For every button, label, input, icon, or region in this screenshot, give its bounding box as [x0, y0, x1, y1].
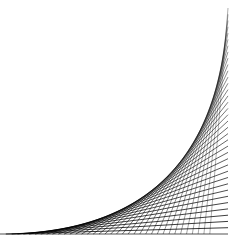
envelope-line — [128, 96, 228, 234]
envelope-curve-figure — [0, 0, 242, 246]
envelope-lines — [0, 8, 228, 234]
